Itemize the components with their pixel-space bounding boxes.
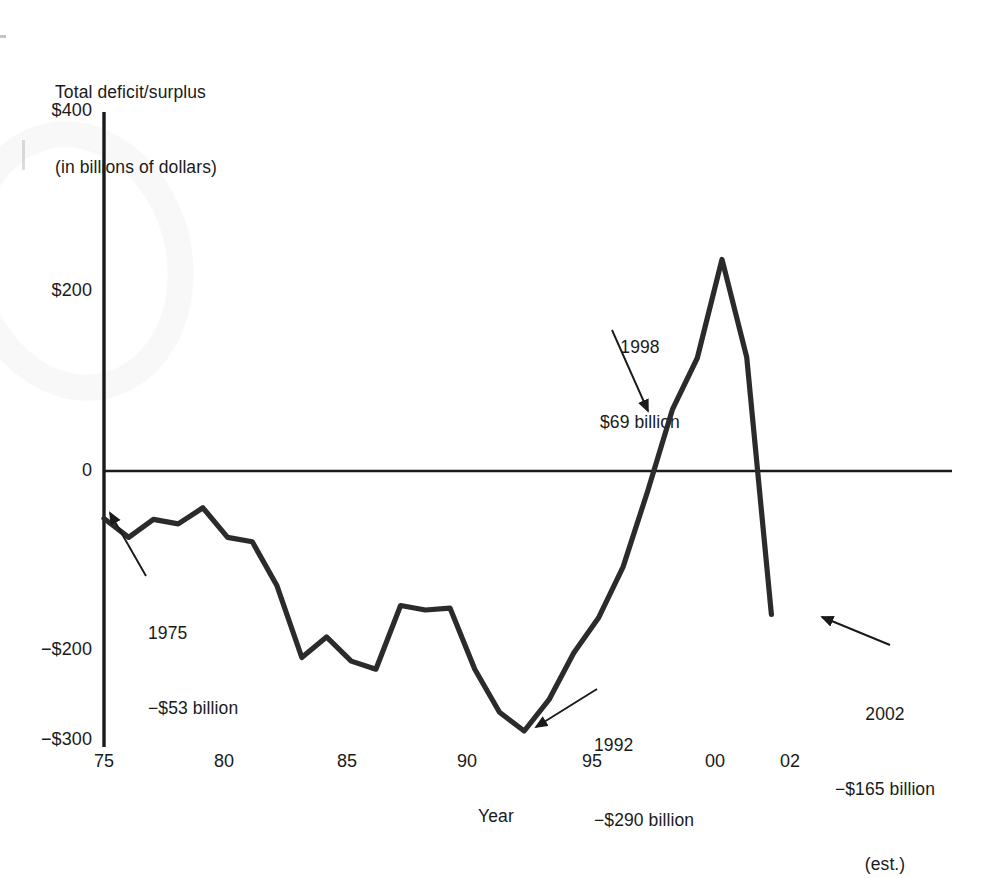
annotation-2002-arrow — [822, 617, 890, 645]
annotation-1998-arrow — [612, 330, 648, 411]
annotation-1975-arrow — [110, 513, 146, 576]
data-series-line — [104, 259, 771, 731]
